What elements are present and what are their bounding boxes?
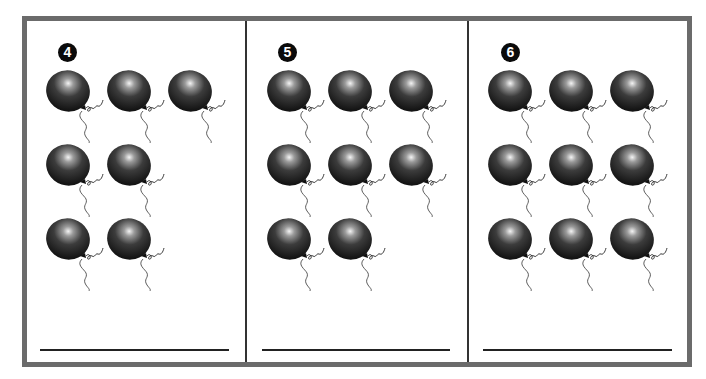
balloon-icon <box>547 141 611 221</box>
balloon-icon <box>486 141 550 221</box>
balloon-icon <box>486 215 550 295</box>
answer-line[interactable] <box>40 349 229 351</box>
balloon-icon <box>326 215 390 295</box>
balloon-icon <box>608 67 672 147</box>
balloon-icon <box>547 67 611 147</box>
answer-line[interactable] <box>262 349 450 351</box>
balloon-icon <box>265 215 329 295</box>
number-badge: 5 <box>278 43 297 62</box>
balloon-icon <box>547 215 611 295</box>
balloon-icon <box>486 67 550 147</box>
balloon-icon <box>105 67 169 147</box>
balloon-icon <box>265 67 329 147</box>
balloon-icon <box>44 215 108 295</box>
number-badge: 4 <box>58 43 77 62</box>
balloon-icon <box>105 141 169 221</box>
balloon-icon <box>387 141 451 221</box>
balloon-icon <box>608 215 672 295</box>
balloon-icon <box>326 141 390 221</box>
balloon-icon <box>105 215 169 295</box>
balloon-icon <box>265 141 329 221</box>
balloon-icon <box>166 67 230 147</box>
answer-line[interactable] <box>483 349 672 351</box>
balloon-icon <box>387 67 451 147</box>
balloon-icon <box>44 67 108 147</box>
balloon-icon <box>44 141 108 221</box>
balloon-icon <box>608 141 672 221</box>
balloon-icon <box>326 67 390 147</box>
number-badge: 6 <box>501 43 520 62</box>
